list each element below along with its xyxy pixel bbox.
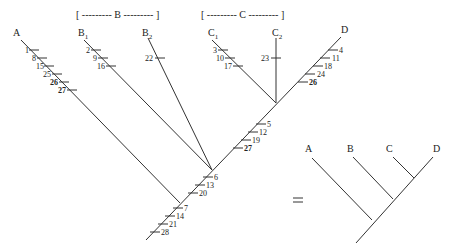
right-taxon-A: A: [305, 143, 313, 154]
char-B2-0: 22: [145, 54, 153, 63]
branch-C1: [212, 40, 276, 103]
char-C1-2: 17: [224, 62, 232, 71]
group-B-label: [ --------- B --------- ]: [76, 9, 159, 20]
char-CD-1: 12: [259, 128, 267, 137]
char-root-3: 28: [161, 228, 169, 237]
right-taxon-C: C: [386, 143, 393, 154]
taxon-D: D: [341, 24, 348, 35]
taxon-C1: C1: [208, 27, 219, 41]
char-BCD-0: 6: [214, 173, 218, 182]
char-root-0: 7: [184, 204, 188, 213]
char-A-4: 26: [50, 78, 58, 87]
right-taxon-D: D: [433, 143, 440, 154]
trunk-main: [146, 37, 341, 240]
char-root-1: 14: [176, 212, 184, 221]
right-branch-C: [393, 157, 414, 178]
char-D-4: 26: [309, 78, 317, 87]
cladogram-figure: [ --------- B --------- ] [ --------- C …: [0, 0, 454, 252]
char-CD-2: 19: [252, 136, 260, 145]
char-BCD-2: 20: [199, 189, 207, 198]
char-C1-1: 10: [216, 54, 224, 63]
taxon-A: A: [13, 27, 21, 38]
taxon-B1: B1: [78, 27, 89, 41]
char-D-1: 11: [332, 54, 340, 63]
char-C2-0: 23: [261, 54, 269, 63]
char-A-0: 1: [25, 46, 29, 55]
char-root-2: 21: [169, 220, 177, 229]
char-B1-2: 16: [97, 62, 105, 71]
right-branch-B: [353, 157, 393, 199]
char-D-3: 24: [317, 70, 325, 79]
char-CD-0: 5: [267, 120, 271, 129]
char-CD-3: 27: [244, 144, 252, 153]
char-A-5: 27: [58, 86, 66, 95]
taxon-B2: B2: [142, 27, 153, 41]
right-trunk: [356, 157, 433, 243]
group-C-label: [ --------- C --------- ]: [201, 9, 284, 20]
taxon-C2: C2: [272, 27, 283, 41]
right-taxon-B: B: [347, 143, 354, 154]
char-B1-0: 2: [86, 46, 90, 55]
char-BCD-1: 13: [206, 181, 214, 190]
char-D-2: 18: [324, 62, 332, 71]
